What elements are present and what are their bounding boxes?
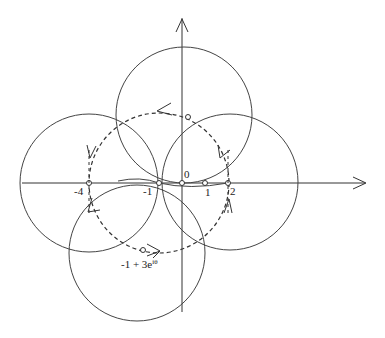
label-minus-four: -4 — [74, 185, 84, 197]
point-zero — [180, 181, 185, 186]
label-contour-base: -1 + 3e — [121, 258, 152, 270]
circle-top — [116, 47, 252, 183]
point-bottom — [141, 248, 146, 253]
point-top — [186, 115, 191, 120]
label-contour-exponent: iθ — [152, 258, 158, 266]
label-one: 1 — [205, 186, 211, 198]
label-zero: 0 — [184, 168, 190, 180]
complex-plane-diagram: -4 -1 0 1 2 -1 + 3eiθ — [0, 0, 385, 338]
point-minus-one — [157, 181, 162, 186]
arrow-bottom-icon — [147, 244, 160, 256]
imaginary-axis — [176, 18, 188, 312]
label-two: 2 — [230, 185, 236, 197]
point-one — [203, 181, 208, 186]
label-contour-expression: -1 + 3eiθ — [121, 258, 158, 270]
label-minus-one: -1 — [143, 185, 152, 197]
